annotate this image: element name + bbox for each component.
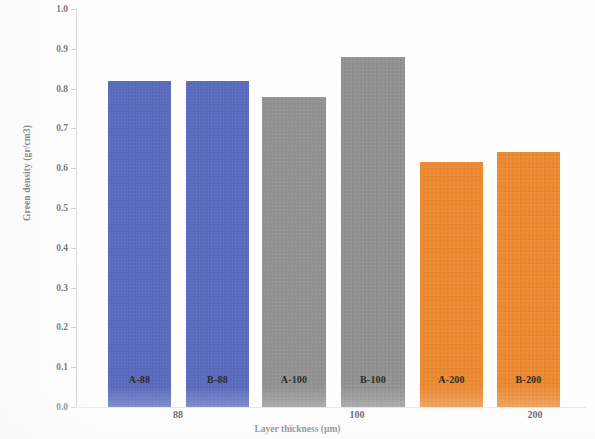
bar: A-200: [420, 162, 483, 407]
bar: A-100: [262, 97, 326, 407]
bar-fill-texture: [497, 152, 560, 407]
bar-label: B-100: [341, 374, 405, 385]
bar-fill-texture: [262, 97, 326, 407]
bar: B-88: [186, 81, 249, 407]
x-axis-title: Layer thickness (μm): [0, 424, 595, 434]
bar-label: B-88: [186, 374, 249, 385]
bar: B-100: [341, 57, 405, 407]
x-axis-group-label: 88: [173, 409, 183, 420]
plot-area: A-88B-88A-100B-100A-200B-200: [0, 0, 595, 439]
bar-fill-texture: [186, 81, 249, 407]
bar-fill-texture: [108, 81, 171, 407]
bar: A-88: [108, 81, 171, 407]
x-axis-group-label: 200: [528, 409, 543, 420]
bar-chart: Green density (gr/cm3) 1.00.90.80.70.60.…: [0, 0, 595, 439]
bar-fill-texture: [420, 162, 483, 407]
x-axis-group-label: 100: [350, 409, 365, 420]
bar-label: A-200: [420, 374, 483, 385]
bar: B-200: [497, 152, 560, 407]
bar-label: A-88: [108, 374, 171, 385]
bar-fill-texture: [341, 57, 405, 407]
bar-label: A-100: [262, 374, 326, 385]
bar-label: B-200: [497, 374, 560, 385]
